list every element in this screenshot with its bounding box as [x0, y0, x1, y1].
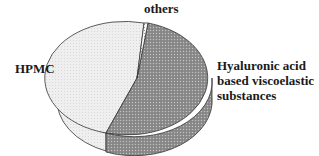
label-ha-line2: based viscoelastic — [217, 73, 319, 88]
label-ha-line1: Hyaluronic acid — [217, 58, 319, 73]
label-hyaluronic-acid: Hyaluronic acid based viscoelastic subst… — [217, 58, 319, 103]
label-others: others — [144, 1, 179, 16]
label-ha-line3: substances — [217, 88, 319, 103]
label-hpmc: HPMC — [15, 61, 55, 76]
